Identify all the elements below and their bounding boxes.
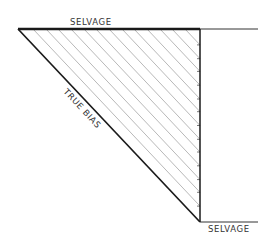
hatch-line [96, 29, 200, 139]
top-selvage-label: SELVAGE [70, 17, 112, 27]
hatch-line [134, 29, 200, 99]
hatch-line [172, 29, 200, 59]
hatch-line [122, 29, 200, 112]
true-bias-diagram: SELVAGE SELVAGE TRUE BIAS [0, 0, 279, 252]
hatch-line [160, 29, 200, 71]
hatch-line [33, 29, 200, 206]
hatch-line [109, 29, 200, 126]
hatch-line [147, 29, 200, 85]
true-bias-label: TRUE BIAS [61, 86, 103, 130]
true-bias-line [18, 29, 200, 222]
hatch-lines [33, 29, 200, 206]
hatch-line [84, 29, 200, 152]
bottom-selvage-label: SELVAGE [208, 224, 250, 234]
hatch-line [71, 29, 200, 166]
hatch-line [46, 29, 200, 192]
hatch-line [185, 29, 200, 45]
